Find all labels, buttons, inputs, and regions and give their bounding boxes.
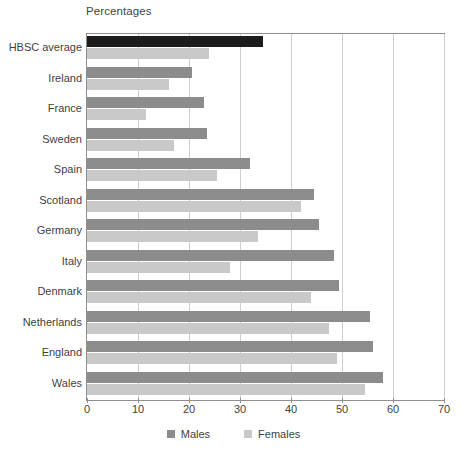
y-axis-label: Sweden [0, 133, 82, 145]
bar-male [87, 97, 204, 108]
bar-group [87, 95, 444, 126]
bar-group [87, 309, 444, 340]
bar-group [87, 278, 444, 309]
y-axis-label: Spain [0, 163, 82, 175]
legend-swatch-males-icon [167, 430, 175, 438]
y-axis-label: Ireland [0, 72, 82, 84]
y-axis-label: Scotland [0, 194, 82, 206]
y-axis-label: Germany [0, 224, 82, 236]
bar-group [87, 156, 444, 187]
bar-male [87, 341, 373, 352]
bar-group [87, 248, 444, 279]
y-axis-labels: HBSC averageIrelandFranceSwedenSpainScot… [0, 33, 82, 401]
chart-title: Percentages [86, 5, 152, 17]
bar-female [87, 79, 169, 90]
legend-item-females[interactable]: Females [244, 428, 300, 440]
legend-label-females: Females [258, 428, 300, 440]
x-tick-label: 0 [84, 403, 90, 415]
bar-female [87, 231, 258, 242]
x-tick-label: 70 [438, 403, 450, 415]
bar-female [87, 201, 301, 212]
bar-group [87, 339, 444, 370]
plot-area [86, 33, 445, 401]
legend-label-males: Males [181, 428, 210, 440]
bar-male [87, 372, 383, 383]
x-tick-label: 40 [285, 403, 297, 415]
bar-group [87, 34, 444, 65]
bar-female [87, 170, 217, 181]
bar-male [87, 67, 192, 78]
x-tick-label: 20 [183, 403, 195, 415]
bar-female [87, 140, 174, 151]
bar-female [87, 262, 230, 273]
x-tick-label: 30 [234, 403, 246, 415]
bar-female [87, 48, 209, 59]
bar-female [87, 353, 337, 364]
bar-female [87, 292, 311, 303]
bar-group [87, 370, 444, 401]
x-tick-label: 10 [132, 403, 144, 415]
x-tick-label: 60 [387, 403, 399, 415]
legend-swatch-females-icon [244, 430, 252, 438]
gridline [444, 34, 445, 400]
x-axis-ticks: 010203040506070 [86, 403, 445, 423]
y-axis-label: Netherlands [0, 316, 82, 328]
bar-male [87, 219, 319, 230]
bar-male [87, 189, 314, 200]
y-axis-label: England [0, 346, 82, 358]
y-axis-label: Italy [0, 255, 82, 267]
y-axis-label: HBSC average [0, 41, 82, 53]
y-axis-label: Wales [0, 377, 82, 389]
bar-male [87, 36, 263, 47]
bar-female [87, 109, 146, 120]
bar-chart: Percentages HBSC averageIrelandFranceSwe… [0, 0, 467, 453]
bar-female [87, 384, 365, 395]
bar-male [87, 250, 334, 261]
bar-rows [87, 34, 444, 400]
bar-male [87, 280, 339, 291]
bar-male [87, 158, 250, 169]
bar-male [87, 311, 370, 322]
y-axis-label: France [0, 102, 82, 114]
x-tick-label: 50 [336, 403, 348, 415]
bar-group [87, 65, 444, 96]
bar-female [87, 323, 329, 334]
bar-group [87, 187, 444, 218]
bar-group [87, 126, 444, 157]
bar-male [87, 128, 207, 139]
bar-group [87, 217, 444, 248]
legend-item-males[interactable]: Males [167, 428, 210, 440]
chart-legend: Males Females [0, 428, 467, 440]
y-axis-label: Denmark [0, 285, 82, 297]
